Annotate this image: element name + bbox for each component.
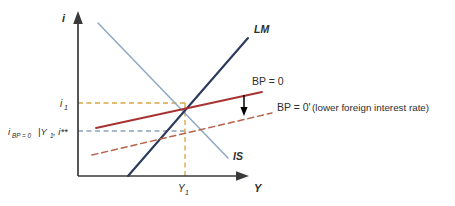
- curve-bp0-line: [96, 92, 262, 128]
- tick-label-i1-subscript: 1: [64, 104, 68, 111]
- curve-bp0-prime-line: [92, 113, 272, 155]
- curve-lm-line: [128, 38, 248, 176]
- y-axis-arrowhead: [73, 11, 83, 24]
- tick-label-ibp0-base: i: [8, 126, 11, 137]
- guide-lines: [78, 103, 185, 176]
- bp-shift-arrow-head: [240, 107, 247, 116]
- figure-root: i Y i 1 i BP = 0 |Y 1 , i** Y 1 LM IS BP…: [0, 0, 455, 206]
- curve-label-bp0-prime-note: (lower foreign interest rate): [312, 102, 429, 113]
- tick-label-Y1: Y 1: [178, 183, 189, 196]
- curve-label-bp0-prime: BP = 0': [277, 101, 311, 113]
- axes: [73, 11, 249, 181]
- tick-label-ibp0-conditional: i BP = 0 |Y 1 , i**: [8, 126, 68, 139]
- curve-group: [92, 23, 272, 176]
- bp-shift-arrow: [240, 95, 247, 116]
- tick-label-i1-base: i: [60, 98, 63, 109]
- tick-label-Y1-subscript: 1: [185, 189, 189, 196]
- curve-label-bp0: BP = 0: [252, 75, 284, 87]
- tick-label-ibp0-subscript: BP = 0: [12, 132, 32, 139]
- is-lm-bp-diagram: i Y i 1 i BP = 0 |Y 1 , i** Y 1 LM IS BP…: [0, 0, 455, 206]
- tick-label-i1: i 1: [60, 98, 68, 111]
- x-axis-arrowhead: [236, 171, 249, 181]
- curve-label-lm: LM: [254, 23, 269, 35]
- y-axis-label: i: [62, 12, 66, 24]
- tick-label-ibp0-conditional-tail: , i**: [53, 126, 68, 137]
- tick-label-ibp0-conditional-bar: |Y: [38, 126, 47, 137]
- curve-label-bp0-prime-group: BP = 0' (lower foreign interest rate): [277, 101, 429, 113]
- x-axis-label: Y: [254, 182, 263, 194]
- curve-label-is: IS: [233, 150, 243, 162]
